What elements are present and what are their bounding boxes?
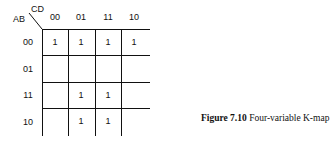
cell (95, 55, 121, 81)
column-header-11: 11 (95, 12, 121, 22)
row-header-10: 10 (20, 117, 36, 127)
cell (121, 55, 147, 81)
column-header-10: 10 (121, 12, 147, 22)
figure-title: Four-variable K-map (249, 113, 329, 123)
figure-number: Figure 7.10 (201, 113, 247, 123)
cell (42, 55, 68, 81)
cell: 1 (42, 29, 68, 55)
column-header-00: 00 (42, 12, 68, 22)
cell: 1 (68, 108, 94, 134)
karnaugh-map: AB CD 00 01 11 10 00 01 11 10 1 1 1 1 1 … (0, 0, 170, 149)
column-header-01: 01 (68, 12, 94, 22)
cell (121, 108, 147, 134)
cell (42, 108, 68, 134)
cell: 1 (95, 29, 121, 55)
figure-caption: Figure 7.10 Four-variable K-map (201, 113, 329, 123)
row-header-01: 01 (20, 64, 36, 74)
row-header-00: 00 (20, 37, 36, 47)
cell (42, 82, 68, 108)
cell: 1 (68, 29, 94, 55)
cell: 1 (68, 82, 94, 108)
cell: 1 (95, 108, 121, 134)
cell: 1 (95, 82, 121, 108)
cell: 1 (121, 29, 147, 55)
cell (121, 82, 147, 108)
row-header-11: 11 (20, 90, 36, 100)
cell (68, 55, 94, 81)
